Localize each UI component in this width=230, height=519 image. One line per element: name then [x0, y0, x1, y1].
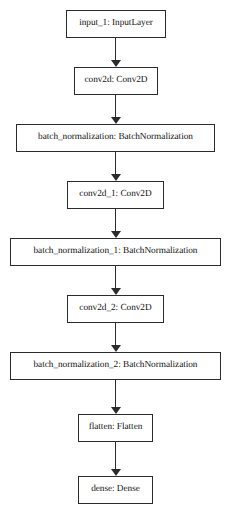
node-flatten[interactable]: flatten: Flatten — [78, 414, 153, 442]
node-batch_normalization_2[interactable]: batch_normalization_2: BatchNormalizatio… — [10, 352, 221, 380]
edge-batch_normalization-to-conv2d_1 — [110, 152, 121, 181]
node-batch_normalization_1[interactable]: batch_normalization_1: BatchNormalizatio… — [10, 238, 221, 266]
model-architecture-diagram: input_1: InputLayer conv2d: Conv2D batch… — [0, 0, 230, 519]
edge-shaft — [115, 152, 116, 174]
edge-batch_normalization_2-to-flatten — [110, 380, 121, 414]
edge-shaft — [115, 323, 116, 345]
node-label: conv2d_2: Conv2D — [79, 304, 151, 313]
node-batch_normalization[interactable]: batch_normalization: BatchNormalization — [16, 124, 215, 152]
node-conv2d_2[interactable]: conv2d_2: Conv2D — [67, 295, 164, 323]
arrowhead-icon — [111, 117, 121, 124]
node-label: conv2d_1: Conv2D — [79, 190, 151, 199]
page-caption-artifact — [0, 505, 230, 519]
node-label: batch_normalization_1: BatchNormalizatio… — [34, 247, 198, 256]
edge-shaft — [115, 380, 116, 407]
node-label: input_1: InputLayer — [79, 19, 153, 28]
arrowhead-icon — [111, 174, 121, 181]
arrowhead-icon — [111, 345, 121, 352]
edge-conv2d_1-to-batch_normalization_1 — [110, 209, 121, 238]
node-label: batch_normalization: BatchNormalization — [38, 133, 193, 142]
arrowhead-icon — [111, 60, 121, 67]
edge-conv2d_2-to-batch_normalization_2 — [110, 323, 121, 352]
arrowhead-icon — [111, 469, 121, 476]
edge-flatten-to-dense — [110, 442, 121, 476]
node-label: dense: Dense — [91, 485, 140, 494]
node-conv2d_1[interactable]: conv2d_1: Conv2D — [67, 181, 164, 209]
edge-shaft — [115, 442, 116, 469]
edge-shaft — [115, 95, 116, 117]
edge-conv2d-to-batch_normalization — [110, 95, 121, 124]
node-label: batch_normalization_2: BatchNormalizatio… — [34, 361, 198, 370]
node-label: flatten: Flatten — [89, 423, 143, 432]
arrowhead-icon — [111, 407, 121, 414]
edge-shaft — [115, 266, 116, 288]
node-conv2d[interactable]: conv2d: Conv2D — [74, 67, 158, 95]
arrowhead-icon — [111, 231, 121, 238]
arrowhead-icon — [111, 288, 121, 295]
node-input_1[interactable]: input_1: InputLayer — [66, 10, 166, 38]
edge-shaft — [115, 38, 116, 60]
edge-input_1-to-conv2d — [110, 38, 121, 67]
edge-batch_normalization_1-to-conv2d_2 — [110, 266, 121, 295]
edge-shaft — [115, 209, 116, 231]
node-dense[interactable]: dense: Dense — [78, 476, 153, 504]
node-label: conv2d: Conv2D — [84, 76, 147, 85]
